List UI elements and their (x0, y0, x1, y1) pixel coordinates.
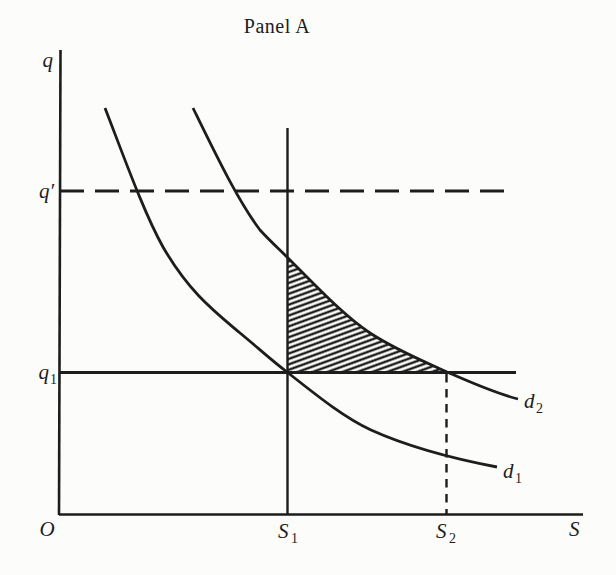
x-axis-label: S (569, 517, 580, 541)
s2-subscript: 2 (449, 531, 456, 546)
d1-curve-subscript: 1 (515, 471, 522, 486)
d2-curve-subscript: 2 (536, 401, 543, 416)
diagram-canvas: Panel A q O S q′ q 1 S 1 S 2 d 1 d 2 (0, 0, 616, 575)
q1-label: q (39, 360, 50, 384)
origin-label: O (39, 517, 54, 541)
y-axis (59, 50, 61, 515)
figure-title: Panel A (244, 15, 310, 37)
q-prime-label: q′ (39, 179, 55, 203)
s1-subscript: 1 (291, 531, 298, 546)
s2-label: S (436, 519, 447, 543)
hatched-region (288, 258, 447, 372)
d1-curve-label: d (503, 459, 514, 483)
y-axis-label: q (43, 48, 54, 72)
d2-curve-label: d (524, 389, 535, 413)
q1-subscript: 1 (50, 372, 57, 387)
s1-label: S (278, 519, 289, 543)
panel-a-figure: Panel A q O S q′ q 1 S 1 S 2 d 1 d 2 (0, 0, 616, 575)
